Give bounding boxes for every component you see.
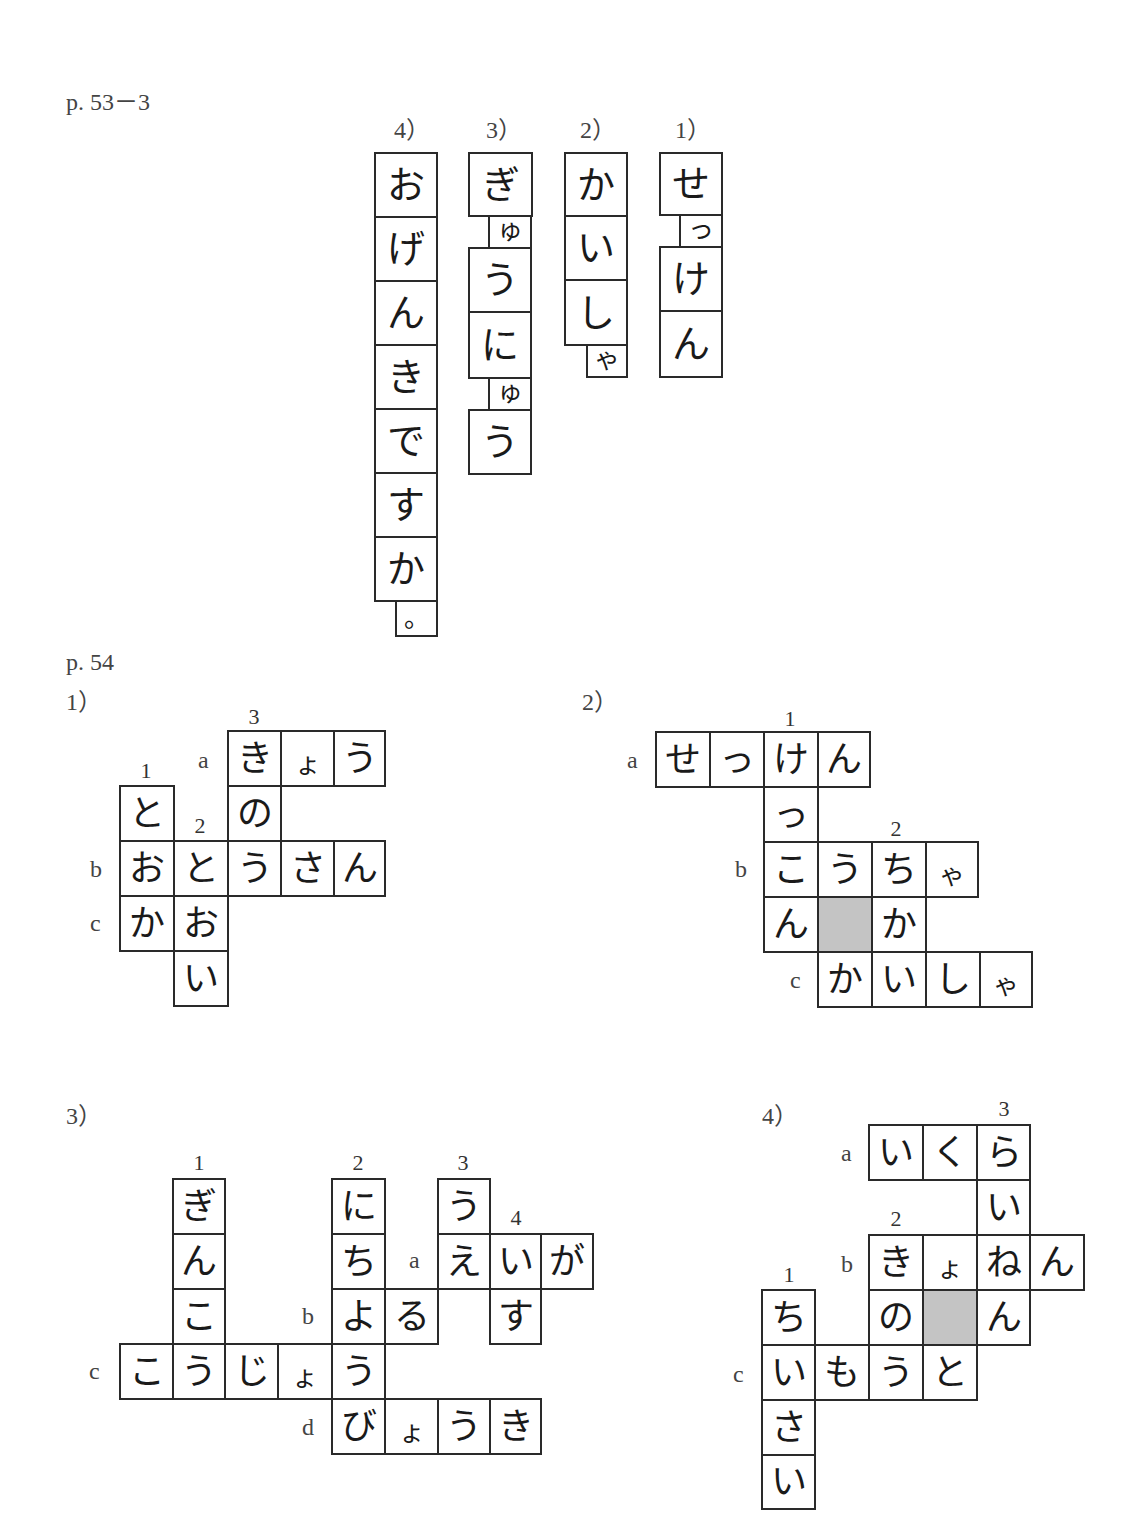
answer-cell: ぎ xyxy=(468,152,533,217)
grid-cell: こ xyxy=(172,1288,226,1345)
grid-cell: か xyxy=(119,895,175,952)
grid-cell: う xyxy=(172,1343,226,1400)
page-label-53: p. 53－3 xyxy=(66,90,150,114)
grid-cell: ょ xyxy=(384,1398,439,1455)
answer-cell: い xyxy=(564,215,628,281)
grid-cell: す xyxy=(489,1288,542,1345)
grid-cell: い xyxy=(868,1124,924,1181)
grid-cell: ね xyxy=(976,1234,1031,1291)
grid-cell: い xyxy=(871,951,927,1008)
across-letter: b xyxy=(302,1304,314,1328)
down-number: 1 xyxy=(119,760,173,782)
answer-cell: う xyxy=(468,409,532,475)
grid-cell: ん xyxy=(333,840,386,897)
puzzle-2-label: 2） xyxy=(582,690,618,714)
grid-cell: ぎ xyxy=(172,1178,226,1235)
down-number: 2 xyxy=(869,1208,923,1230)
grid-cell: び xyxy=(331,1398,386,1455)
item-3-label: 3） xyxy=(486,118,522,142)
grid-cell: っ xyxy=(763,786,819,843)
grid-cell: う xyxy=(333,730,386,787)
down-number: 1 xyxy=(763,708,817,730)
grid-cell: ん xyxy=(172,1233,226,1290)
across-letter: c xyxy=(790,968,801,992)
grid-cell: お xyxy=(119,840,175,897)
grid-cell: う xyxy=(437,1398,491,1455)
across-letter: a xyxy=(841,1141,852,1165)
grid-cell: い xyxy=(976,1179,1031,1236)
grid-cell: い xyxy=(173,950,229,1007)
grid-cell: う xyxy=(227,840,282,897)
answer-cell: に xyxy=(468,311,532,379)
across-letter: b xyxy=(90,857,102,881)
grid-cell: ち xyxy=(761,1289,816,1346)
grid-cell: ん xyxy=(1029,1234,1085,1291)
grid-cell: き xyxy=(489,1398,542,1455)
item-4-label: 4） xyxy=(394,118,430,142)
across-letter: a xyxy=(627,748,638,772)
answer-cell-small: っ xyxy=(679,214,723,248)
grid-cell: っ xyxy=(709,731,765,788)
grid-cell: が xyxy=(540,1233,594,1290)
down-number: 3 xyxy=(436,1152,490,1174)
answer-cell-small: 。 xyxy=(395,600,438,637)
down-number: 2 xyxy=(331,1152,385,1174)
grid-cell: こ xyxy=(763,841,819,898)
grid-cell: と xyxy=(922,1344,978,1401)
grid-cell: え xyxy=(437,1233,491,1290)
puzzle-1-label: 1） xyxy=(66,690,102,714)
grid-cell: い xyxy=(761,1344,816,1401)
down-number: 3 xyxy=(977,1098,1031,1120)
page-label-54: p. 54 xyxy=(66,650,114,674)
shaded-cell xyxy=(817,896,873,953)
grid-cell: ょ xyxy=(922,1234,978,1291)
grid-cell: さ xyxy=(280,840,335,897)
grid-cell: う xyxy=(817,841,873,898)
puzzle-4-label: 4） xyxy=(762,1104,798,1128)
answer-cell: ん xyxy=(659,310,723,378)
grid-cell: さ xyxy=(761,1399,816,1456)
answer-cell-small: ゅ xyxy=(488,215,532,249)
answer-cell: う xyxy=(468,247,532,313)
down-number: 2 xyxy=(869,818,923,840)
grid-cell: と xyxy=(173,840,229,897)
grid-cell: ゃ xyxy=(925,841,979,898)
grid-cell: ゃ xyxy=(979,951,1033,1008)
answer-cell: せ xyxy=(659,152,723,216)
grid-cell: か xyxy=(817,951,873,1008)
grid-cell: じ xyxy=(224,1343,279,1400)
down-number: 1 xyxy=(762,1264,816,1286)
grid-cell: ち xyxy=(871,841,927,898)
item-2-label: 2） xyxy=(580,118,616,142)
answer-cell-small: ゃ xyxy=(586,344,628,378)
across-letter: b xyxy=(841,1252,853,1276)
grid-cell: い xyxy=(489,1233,542,1290)
answer-cell: ん xyxy=(374,280,438,346)
grid-cell: く xyxy=(922,1124,978,1181)
grid-cell: う xyxy=(331,1343,386,1400)
grid-cell: の xyxy=(227,785,282,842)
across-letter: c xyxy=(89,1359,100,1383)
grid-cell: ょ xyxy=(280,730,335,787)
grid-cell: こ xyxy=(119,1343,174,1400)
grid-cell: け xyxy=(763,731,819,788)
across-letter: a xyxy=(198,748,209,772)
across-letter: c xyxy=(90,911,101,935)
grid-cell: ん xyxy=(976,1289,1031,1346)
grid-cell: る xyxy=(384,1288,439,1345)
grid-cell: か xyxy=(871,896,927,953)
grid-cell: よ xyxy=(331,1288,386,1345)
grid-cell: と xyxy=(119,785,175,842)
grid-cell: う xyxy=(868,1344,924,1401)
grid-cell: き xyxy=(227,730,282,787)
answer-cell-small: ゅ xyxy=(488,377,532,411)
answer-cell: お xyxy=(374,152,438,218)
grid-cell: ら xyxy=(976,1124,1031,1181)
grid-cell: ょ xyxy=(277,1343,333,1400)
grid-cell: し xyxy=(925,951,981,1008)
puzzle-3-label: 3） xyxy=(66,1104,102,1128)
grid-cell: ん xyxy=(763,896,819,953)
down-number: 2 xyxy=(173,815,227,837)
grid-cell: も xyxy=(814,1344,870,1401)
grid-cell: せ xyxy=(655,731,711,788)
